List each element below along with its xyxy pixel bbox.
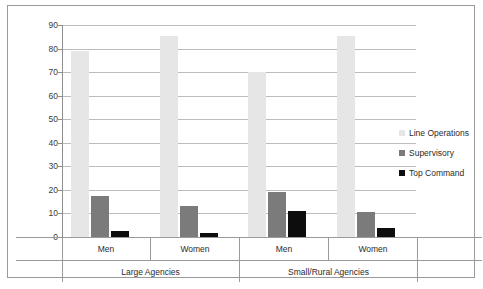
y-axis-tick-label: 10 [49,209,58,218]
category-label-men: Men [62,238,150,260]
bar-group [337,25,395,237]
bar-top-cmd [288,211,306,237]
y-axis-tick-mark [58,49,62,50]
y-axis-line [62,25,63,238]
y-axis-tick-mark [58,119,62,120]
plot-area [62,25,416,237]
figure-container: 9080706050403020100 Line OperationsSuper… [0,0,483,289]
legend-swatch-icon [399,170,405,176]
bar-line-ops [248,72,266,237]
bar-line-ops [160,36,178,237]
legend-item: Supervisory [399,143,483,163]
bar-group [71,25,129,237]
y-axis-tick-mark [58,190,62,191]
legend-label: Top Command [409,169,464,178]
category-row-gender: MenWomenMenWomen [62,238,417,260]
y-axis-tick-label: 80 [49,44,58,53]
y-axis-tick-mark [58,25,62,26]
y-axis-tick-mark [58,213,62,214]
bar-group [248,25,306,237]
y-axis-tick-label: 90 [49,21,58,30]
category-label-women: Women [328,238,417,260]
category-label-women: Women [150,238,239,260]
category-label-men: Men [239,238,328,260]
y-axis-tick-label: 70 [49,68,58,77]
y-axis-tick-label: 60 [49,91,58,100]
y-axis-tick-mark [58,237,62,238]
y-axis-tick-mark [58,72,62,73]
figure-caption [9,281,474,289]
bar-line-ops [337,36,355,237]
bar-supervisory [357,212,375,237]
legend-item: Top Command [399,163,483,183]
legend-swatch-icon [399,150,405,156]
chart-frame: 9080706050403020100 Line OperationsSuper… [7,5,475,278]
legend-item: Line Operations [399,123,483,143]
group-label: Large Agencies [62,260,239,282]
group-label: Small/Rural Agencies [239,260,417,282]
y-axis-tick-labels: 9080706050403020100 [28,25,58,237]
bar-supervisory [91,196,109,237]
bar-top-cmd [377,228,395,237]
chart-legend: Line OperationsSupervisoryTop Command [399,123,483,183]
bar-group [160,25,218,237]
y-axis-tick-label: 30 [49,162,58,171]
legend-label: Line Operations [409,129,469,138]
bar-supervisory [180,206,198,237]
y-axis-tick-mark [58,143,62,144]
y-axis-tick-mark [58,166,62,167]
bar-line-ops [71,51,89,237]
y-axis-tick-label: 50 [49,115,58,124]
category-band-right-divider [417,238,418,282]
legend-swatch-icon [399,130,405,136]
y-axis-tick-label: 40 [49,139,58,148]
y-axis-tick-label: 20 [49,186,58,195]
category-row-agency-type: Large AgenciesSmall/Rural Agencies [62,260,417,282]
legend-label: Supervisory [409,149,454,158]
y-axis-tick-mark [58,96,62,97]
bar-supervisory [268,192,286,237]
